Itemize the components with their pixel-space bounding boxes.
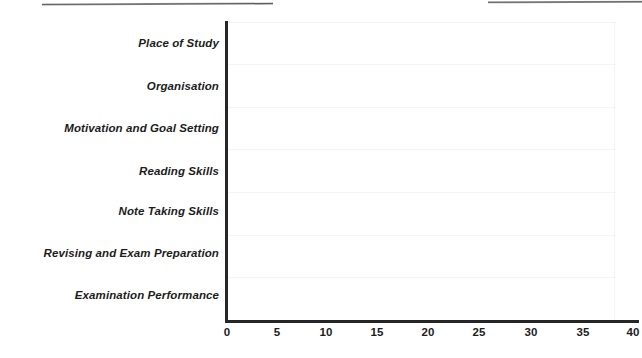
chart-screenshot: Place of Study Organisation Motivation a…: [0, 0, 642, 358]
horizontal-bar-chart: Place of Study Organisation Motivation a…: [0, 0, 642, 358]
xtick-15: 15: [371, 326, 384, 339]
value-axis-tick-labels: 0 5 10 15 20 25 30 35 40: [0, 326, 642, 344]
xtick-20: 20: [422, 326, 435, 339]
value-axis-line: [225, 320, 639, 323]
category-axis-labels: Place of Study Organisation Motivation a…: [0, 0, 219, 321]
category-label-examination-performance: Examination Performance: [0, 289, 219, 302]
bar-series-container: [227, 22, 615, 321]
category-label-revising-and-exam-preparation: Revising and Exam Preparation: [0, 247, 219, 260]
xtick-10: 10: [320, 326, 333, 339]
xtick-0: 0: [224, 326, 230, 339]
xtick-30: 30: [525, 326, 538, 339]
xtick-35: 35: [577, 326, 590, 339]
xtick-40: 40: [627, 326, 640, 339]
category-label-organisation: Organisation: [0, 80, 219, 93]
category-label-note-taking-skills: Note Taking Skills: [0, 205, 219, 218]
xtick-25: 25: [473, 326, 486, 339]
category-label-motivation-and-goal-setting: Motivation and Goal Setting: [0, 122, 219, 135]
category-label-reading-skills: Reading Skills: [0, 165, 219, 178]
xtick-5: 5: [274, 326, 280, 339]
category-label-place-of-study: Place of Study: [0, 37, 219, 50]
category-axis-line: [225, 21, 228, 323]
